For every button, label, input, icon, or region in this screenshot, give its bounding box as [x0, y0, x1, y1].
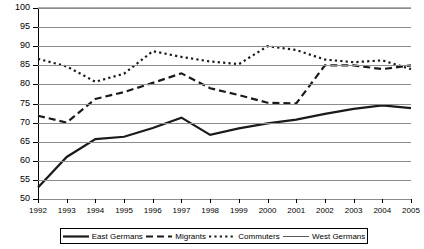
x-tick-mark: [38, 199, 39, 203]
x-tick-mark: [239, 199, 240, 203]
legend-item-migrants[interactable]: Migrants: [146, 232, 206, 241]
x-tick-mark: [124, 199, 125, 203]
series-line-migrants: [38, 65, 411, 122]
y-tick-label: 65: [0, 137, 30, 146]
x-tick-mark: [382, 199, 383, 203]
legend-item-west-germans[interactable]: West Germans: [283, 232, 365, 241]
chart-legend: East GermansMigrantsCommutersWest German…: [60, 228, 368, 244]
y-tick-label: 85: [0, 60, 30, 69]
legend-label: West Germans: [312, 232, 365, 241]
gridline: [38, 65, 411, 66]
legend-label: East Germans: [92, 232, 143, 241]
gridline: [38, 161, 411, 162]
legend-label: Commuters: [238, 232, 279, 241]
thin-solid-line-swatch: [283, 232, 309, 241]
y-tick-label: 60: [0, 156, 30, 165]
x-tick-mark: [296, 199, 297, 203]
series-line-east-germans: [38, 105, 411, 187]
y-tick-label: 55: [0, 175, 30, 184]
gridline: [38, 123, 411, 124]
y-tick-label: 75: [0, 99, 30, 108]
gridline: [38, 199, 411, 200]
solid-thick-line-swatch: [63, 232, 89, 241]
x-tick-mark: [181, 199, 182, 203]
y-tick-label: 95: [0, 22, 30, 31]
x-tick-mark: [354, 199, 355, 203]
y-tick-label: 80: [0, 79, 30, 88]
gridline: [38, 46, 411, 47]
gridline: [38, 8, 411, 9]
long-dash-line-swatch: [146, 232, 172, 241]
x-tick-mark: [67, 199, 68, 203]
gridline: [38, 180, 411, 181]
x-tick-mark: [210, 199, 211, 203]
gridline: [38, 84, 411, 85]
legend-label: Migrants: [175, 232, 206, 241]
x-tick-mark: [268, 199, 269, 203]
gridline: [38, 27, 411, 28]
legend-item-east-germans[interactable]: East Germans: [63, 232, 143, 241]
x-tick-mark: [325, 199, 326, 203]
legend-item-commuters[interactable]: Commuters: [209, 232, 279, 241]
line-chart: 50556065707580859095100 1992199319941995…: [0, 0, 424, 249]
gridline: [38, 142, 411, 143]
x-tick-mark: [153, 199, 154, 203]
y-tick-label: 70: [0, 118, 30, 127]
y-tick-label: 90: [0, 41, 30, 50]
y-tick-label: 100: [0, 3, 30, 12]
x-tick-mark: [411, 199, 412, 203]
series-line-commuters: [38, 46, 411, 82]
x-tick-mark: [95, 199, 96, 203]
plot-area: [38, 8, 411, 199]
gridline: [38, 104, 411, 105]
x-tick-label: 2005: [394, 206, 424, 215]
dotted-line-swatch: [209, 232, 235, 241]
y-tick-label: 50: [0, 194, 30, 203]
